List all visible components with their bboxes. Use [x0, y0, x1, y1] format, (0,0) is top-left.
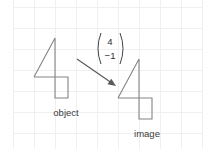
translation-diagram: 4 −1 object image — [0, 0, 214, 149]
diagram-background — [0, 0, 214, 149]
object-label: object — [53, 107, 79, 118]
diagram-canvas: 4 −1 object image — [0, 0, 214, 149]
vector-y-component: −1 — [105, 50, 116, 61]
vector-x-component: 4 — [107, 36, 112, 47]
image-label: image — [134, 128, 160, 139]
